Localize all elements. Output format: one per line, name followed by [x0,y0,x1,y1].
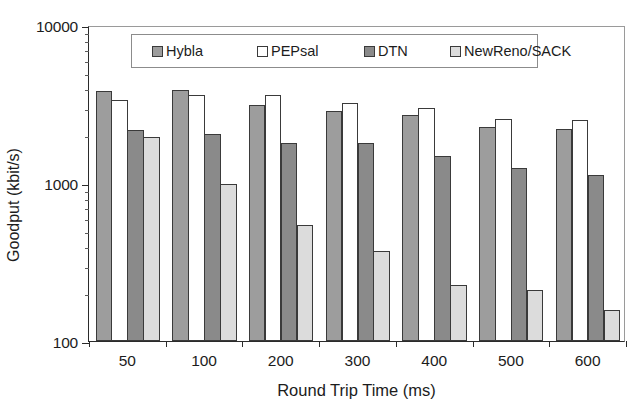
newreno-sack-swatch [450,46,461,57]
bar-newreno-sack-rtt-400 [450,285,467,341]
x-axis-tick [319,341,320,347]
bar-dtn-rtt-200 [281,143,298,341]
bar-pepsal-rtt-50 [111,100,128,341]
legend-item-label: PEPsal [271,43,319,59]
y-axis-minor-tick [85,220,89,221]
y-axis-minor-tick [85,209,89,210]
x-axis-tick-label: 400 [421,352,447,370]
x-axis-tick [396,341,397,347]
y-axis-minor-tick [85,192,89,193]
x-axis-tick-label: 600 [575,352,601,370]
legend-item-dtn: DTN [364,43,408,59]
x-axis-tick-label: 200 [268,352,294,370]
bar-dtn-rtt-500 [511,168,528,341]
bar-pepsal-rtt-400 [418,108,435,341]
y-axis-minor-tick [85,90,89,91]
bar-pepsal-rtt-100 [188,95,205,341]
legend-item-pepsal: PEPsal [257,43,319,59]
y-axis-minor-tick [85,248,89,249]
x-axis-tick [166,341,167,347]
y-axis-minor-tick [85,295,89,296]
plot-area: 100001000100 50100200300400500600 [88,26,625,342]
x-axis-tick [89,341,90,347]
bar-pepsal-rtt-500 [495,119,512,341]
bar-newreno-sack-rtt-300 [373,251,390,341]
bar-newreno-sack-rtt-200 [297,225,314,341]
x-axis-tick [549,341,550,347]
y-axis-title: Goodput (kbit/s) [5,148,23,262]
y-axis-minor-tick [85,200,89,201]
bar-hybla-rtt-50 [96,91,113,341]
y-axis-tick-label: 1000 [44,176,78,194]
x-axis-tick-label: 100 [191,352,217,370]
legend-item-label: NewReno/SACK [464,43,571,59]
legend-item-label: Hybla [166,43,203,59]
y-axis-major-tick [82,185,89,186]
bar-pepsal-rtt-300 [342,103,359,341]
bar-newreno-sack-rtt-500 [527,290,544,341]
bar-pepsal-rtt-600 [572,120,589,341]
bar-hybla-rtt-200 [249,105,266,341]
bar-newreno-sack-rtt-600 [604,310,621,341]
y-axis-tick-label: 10000 [36,18,78,36]
y-axis-minor-tick [85,233,89,234]
bar-hybla-rtt-500 [479,127,496,341]
bar-dtn-rtt-50 [127,130,144,341]
bar-newreno-sack-rtt-50 [143,137,160,341]
y-axis-major-tick [82,27,89,28]
legend-item-newreno-sack: NewReno/SACK [450,43,571,59]
x-axis-tick-label: 500 [498,352,524,370]
hybla-swatch [152,46,163,57]
pepsal-swatch [257,46,268,57]
bar-dtn-rtt-300 [358,143,375,341]
y-axis-tick-label: 100 [53,334,78,352]
bar-hybla-rtt-400 [402,115,419,341]
y-axis-minor-tick [85,75,89,76]
y-axis-minor-tick [85,268,89,269]
x-axis-tick [626,341,627,347]
legend-item-label: DTN [378,43,408,59]
legend-item-hybla: Hybla [152,43,203,59]
bar-hybla-rtt-100 [172,90,189,341]
y-axis-major-tick [82,343,89,344]
bar-pepsal-rtt-200 [265,95,282,341]
y-axis-minor-tick [85,62,89,63]
x-axis-tick-label: 50 [119,352,136,370]
y-axis-minor-tick [85,110,89,111]
bar-hybla-rtt-600 [556,129,573,341]
x-axis-tick [242,341,243,347]
bar-dtn-rtt-100 [204,134,221,341]
chart-legend: HyblaPEPsalDTNNewReno/SACK [131,34,538,68]
y-axis-minor-tick [85,51,89,52]
y-axis-minor-tick [85,137,89,138]
x-axis-tick [473,341,474,347]
bar-dtn-rtt-400 [434,156,451,341]
bar-newreno-sack-rtt-100 [220,184,237,341]
goodput-vs-rtt-bar-chart: Goodput (kbit/s) 100001000100 5010020030… [0,0,641,409]
bar-dtn-rtt-600 [588,175,605,341]
y-axis-minor-tick [85,42,89,43]
x-axis-tick-label: 300 [345,352,371,370]
x-axis-title: Round Trip Time (ms) [88,381,625,400]
bar-hybla-rtt-300 [326,111,343,341]
dtn-swatch [364,46,375,57]
y-axis-minor-tick [85,34,89,35]
